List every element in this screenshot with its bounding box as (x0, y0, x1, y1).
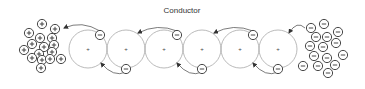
electron (121, 64, 130, 73)
nucleus-plus-icon: + (200, 46, 204, 52)
nucleus-plus-icon: + (162, 46, 166, 52)
moving-electrons (95, 30, 282, 73)
positive-charge (36, 63, 45, 72)
positive-charge (50, 24, 59, 33)
negative-charge (313, 61, 322, 70)
negative-charge (333, 27, 342, 36)
atom: + (107, 30, 145, 68)
nucleus-plus-icon: + (238, 46, 242, 52)
negative-charge (318, 42, 327, 51)
positive-charge (24, 28, 33, 37)
negative-charge (322, 53, 331, 62)
flow-arrow-icon (214, 27, 253, 33)
positive-charge (35, 33, 44, 42)
electron (248, 30, 257, 39)
atom: + (183, 30, 221, 68)
negative-charge (322, 32, 331, 41)
nucleus-plus-icon: + (86, 46, 90, 52)
nucleus-plus-icon: + (124, 46, 128, 52)
positive-charge-cluster (19, 19, 65, 72)
negative-charge (338, 50, 347, 59)
atom: + (259, 30, 297, 68)
negative-charge (311, 32, 320, 41)
conductor-diagram: Conductor ++++++ (0, 0, 365, 89)
nucleus-plus-icon: + (276, 46, 280, 52)
electron (197, 64, 206, 73)
negative-charge-cluster (298, 19, 347, 77)
positive-charge (45, 54, 54, 63)
negative-charge (306, 23, 315, 32)
negative-charge (323, 68, 332, 77)
electron (273, 64, 282, 73)
positive-charge (27, 39, 36, 48)
negative-charge (330, 60, 339, 69)
negative-charge (319, 19, 328, 28)
positive-charge (56, 54, 65, 63)
negative-charge (331, 38, 340, 47)
electron (95, 30, 104, 39)
positive-charge (37, 19, 46, 28)
positive-charge (27, 53, 36, 62)
negative-charge (309, 51, 318, 60)
flow-arrow-icon (289, 25, 305, 33)
electron (172, 30, 181, 39)
flow-arrow-icon (138, 27, 177, 33)
negative-charge (305, 41, 314, 50)
flow-arrow-icon (64, 25, 100, 31)
diagram-title: Conductor (164, 6, 201, 15)
positive-charge (19, 45, 28, 54)
negative-charge (298, 61, 307, 70)
